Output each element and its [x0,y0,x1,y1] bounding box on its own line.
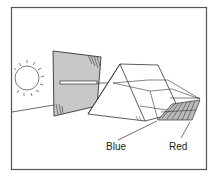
label-red: Red [169,141,187,152]
prism-diagram: Blue Red [0,0,221,176]
ground-line [12,105,54,112]
blue-leader-line [118,121,157,140]
sun-icon [14,60,44,96]
label-blue: Blue [106,141,126,152]
slit [60,81,97,84]
red-leader-line [181,122,190,138]
